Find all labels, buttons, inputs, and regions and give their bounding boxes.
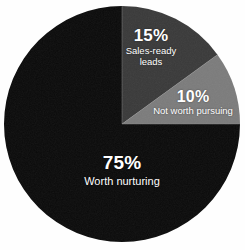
pie-grain-overlay bbox=[0, 0, 245, 250]
pie-chart-canvas bbox=[0, 0, 245, 250]
pie-chart: 15% Sales-ready leads 10% Not worth purs… bbox=[0, 0, 245, 250]
